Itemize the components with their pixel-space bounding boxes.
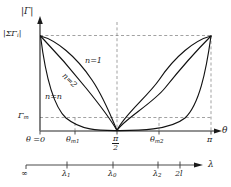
x-tick-theta-zero: θ =0: [26, 136, 45, 144]
lambda-tick-two-l: 2l: [175, 170, 183, 178]
lambda-axis-arrowhead: [194, 162, 203, 167]
curve-label-nn: n=n: [45, 93, 62, 101]
pi-over-2-denominator: 2: [112, 144, 119, 153]
lambda-axis-group: [26, 162, 203, 170]
lambda-axis-title: λ: [208, 160, 214, 169]
curve-n1-left: [41, 36, 118, 131]
x-tick-pi-over-2: π 2: [112, 135, 119, 153]
y-tick-sum-gamma: |ΣΓi|: [3, 30, 21, 38]
y-axis-arrowhead: [37, 16, 43, 24]
lambda-tick-infinity: ∞: [21, 170, 28, 178]
y-axis-title: |Γ|: [21, 7, 33, 16]
x-tick-pi: π: [207, 136, 212, 144]
figure-container: |Γ| |ΣΓi| Γm n=1 n=2 n=n θ θ =0 θm1 π 2 …: [0, 0, 231, 187]
plot-canvas: [0, 0, 231, 187]
theta-axis-arrowhead: [214, 128, 222, 133]
lambda-tick-2: λ2: [153, 170, 162, 178]
y-tick-gamma-m: Γm: [18, 112, 29, 120]
theta-axis-title: θ: [222, 126, 227, 135]
theta-axis-group: [40, 128, 222, 134]
x-tick-theta-m2: θm2: [150, 136, 164, 144]
x-tick-theta-m1: θm1: [66, 136, 80, 144]
curve-label-n1: n=1: [85, 57, 102, 65]
curve-n2-right: [117, 36, 211, 131]
curve-nn-left: [41, 36, 118, 131]
curve-n2-left: [41, 36, 118, 131]
lambda-tick-1: λ1: [62, 170, 71, 178]
lambda-tick-0: λ0: [108, 170, 117, 178]
y-axis-group: [37, 16, 43, 131]
